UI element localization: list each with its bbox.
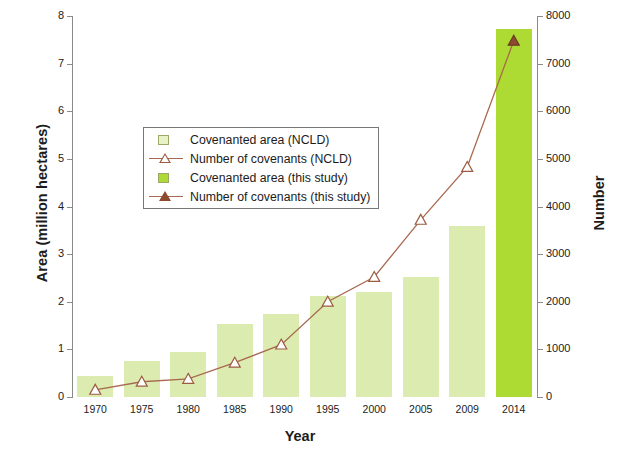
covenant-number-line [0,0,617,455]
data-point-1980 [183,373,194,383]
open-triangle-line-icon [144,150,190,168]
legend-label: Covenanted area (this study) [190,172,348,184]
legend-item-covenanted-area-this-study: Covenanted area (this study) [144,169,380,187]
pale-square-icon [144,131,190,149]
legend-label: Number of covenants (NCLD) [190,153,352,165]
bright-square-icon [144,169,190,187]
chart-legend: Covenanted area (NCLD) Number of covenan… [143,127,379,209]
legend-item-number-of-covenants-ncld: Number of covenants (NCLD) [144,150,380,168]
legend-item-covenanted-area-ncld: Covenanted area (NCLD) [144,131,380,149]
data-point-1985 [229,357,240,367]
legend-label: Covenanted area (NCLD) [190,134,329,146]
legend-label: Number of covenants (this study) [190,191,370,203]
legend-item-number-of-covenants-this-study: Number of covenants (this study) [144,188,380,206]
data-point-2014 [508,35,519,45]
filled-triangle-line-icon [144,188,190,206]
data-point-2009 [462,161,473,171]
chart-figure: Area (million hectares) Number Year 0123… [0,0,617,455]
data-point-1995 [322,296,333,306]
